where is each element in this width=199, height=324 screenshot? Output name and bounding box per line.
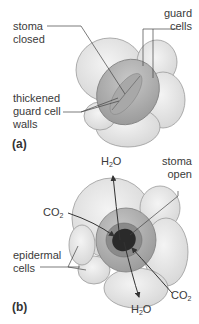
label-co2-left: CO2 (43, 206, 63, 219)
label-co2-right: CO2 (171, 289, 191, 302)
label-thickened-guard-cell-walls: thickened guard cell walls (13, 92, 61, 131)
closed-stoma-illustration (76, 38, 185, 147)
label-stoma-open: stoma open (162, 155, 192, 181)
panel-label-b: (b) (12, 300, 27, 314)
epidermal-cell (69, 225, 95, 265)
label-epidermal-cells: epidermal cells (13, 249, 61, 275)
label-stoma-closed: stoma closed (13, 20, 45, 46)
panel-label-a: (a) (12, 137, 27, 151)
label-h2o-bottom: H2O (131, 303, 151, 316)
label-h2o-top: H2O (101, 155, 121, 168)
label-guard-cells: guard cells (160, 7, 192, 33)
